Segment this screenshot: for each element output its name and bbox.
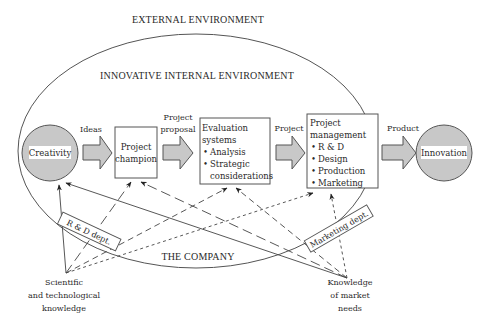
innovation-node: Innovation [416, 125, 472, 181]
project-proposal-line2: proposal [160, 125, 196, 134]
bullet-icon: • [203, 159, 208, 169]
bullet-icon: • [203, 147, 208, 157]
bullet-icon: • [311, 142, 316, 152]
project-champion-line1: Project [121, 142, 152, 152]
market-line2: of market [330, 291, 370, 300]
project-management-box: Project management • R & D • Design • Pr… [307, 114, 378, 188]
project-proposal-line1: Project [164, 113, 194, 122]
management-bullet-marketing: Marketing [318, 178, 364, 188]
internal-environment-label: INNOVATIVE INTERNAL ENVIRONMENT [100, 70, 294, 81]
marketing-dept-label: Marketing dept. [309, 209, 370, 250]
evaluation-bullet-analysis: Analysis [209, 147, 246, 157]
project-arrow-icon [276, 136, 305, 169]
scientific-knowledge-source: Scientific and technological knowledge [28, 278, 100, 313]
market-knowledge-source: Knowledge of market needs [327, 278, 372, 313]
bullet-icon: • [311, 178, 316, 188]
project-label: Project [275, 124, 305, 133]
ideas-arrow-icon [83, 136, 112, 169]
management-title-line2: management [310, 130, 367, 140]
management-bullet-production: Production [318, 166, 366, 176]
the-company-label: THE COMPANY [161, 251, 234, 262]
bullet-icon: • [311, 154, 316, 164]
market-knowledge-connectors [66, 182, 347, 278]
evaluation-bullet-considerations: considerations [210, 171, 273, 181]
scientific-line3: knowledge [42, 304, 86, 313]
product-arrow-icon [382, 136, 416, 169]
management-bullet-design: Design [318, 154, 348, 164]
ideas-label: Ideas [80, 125, 102, 134]
management-title-line1: Project [310, 118, 341, 128]
project-proposal-arrow-icon [163, 136, 193, 169]
project-champion-line2: champion [115, 154, 158, 164]
management-bullet-rd: R & D [318, 142, 344, 152]
scientific-line2: and technological [28, 291, 100, 300]
evaluation-systems-box: Evaluation systems • Analysis • Strategi… [200, 118, 273, 184]
marketing-dept-tag: Marketing dept. [304, 205, 373, 252]
evaluation-bullet-strategic: Strategic [210, 159, 250, 169]
innovation-process-diagram: EXTERNAL ENVIRONMENT INNOVATIVE INTERNAL… [0, 0, 492, 328]
product-label: Product [387, 124, 420, 133]
sci-to-creativity-line [59, 185, 66, 273]
scientific-line1: Scientific [45, 278, 84, 287]
innovation-label: Innovation [421, 148, 468, 158]
market-line1: Knowledge [327, 278, 372, 287]
creativity-node: Creativity [22, 125, 78, 181]
evaluation-title-line1: Evaluation [202, 123, 249, 133]
evaluation-title-line2: systems [202, 135, 236, 145]
bullet-icon: • [311, 166, 316, 176]
market-line3: needs [338, 304, 362, 313]
project-champion-box: Project champion [115, 127, 158, 178]
external-environment-label: EXTERNAL ENVIRONMENT [132, 14, 264, 25]
market-to-creativity-line [66, 183, 347, 278]
creativity-label: Creativity [29, 148, 72, 158]
